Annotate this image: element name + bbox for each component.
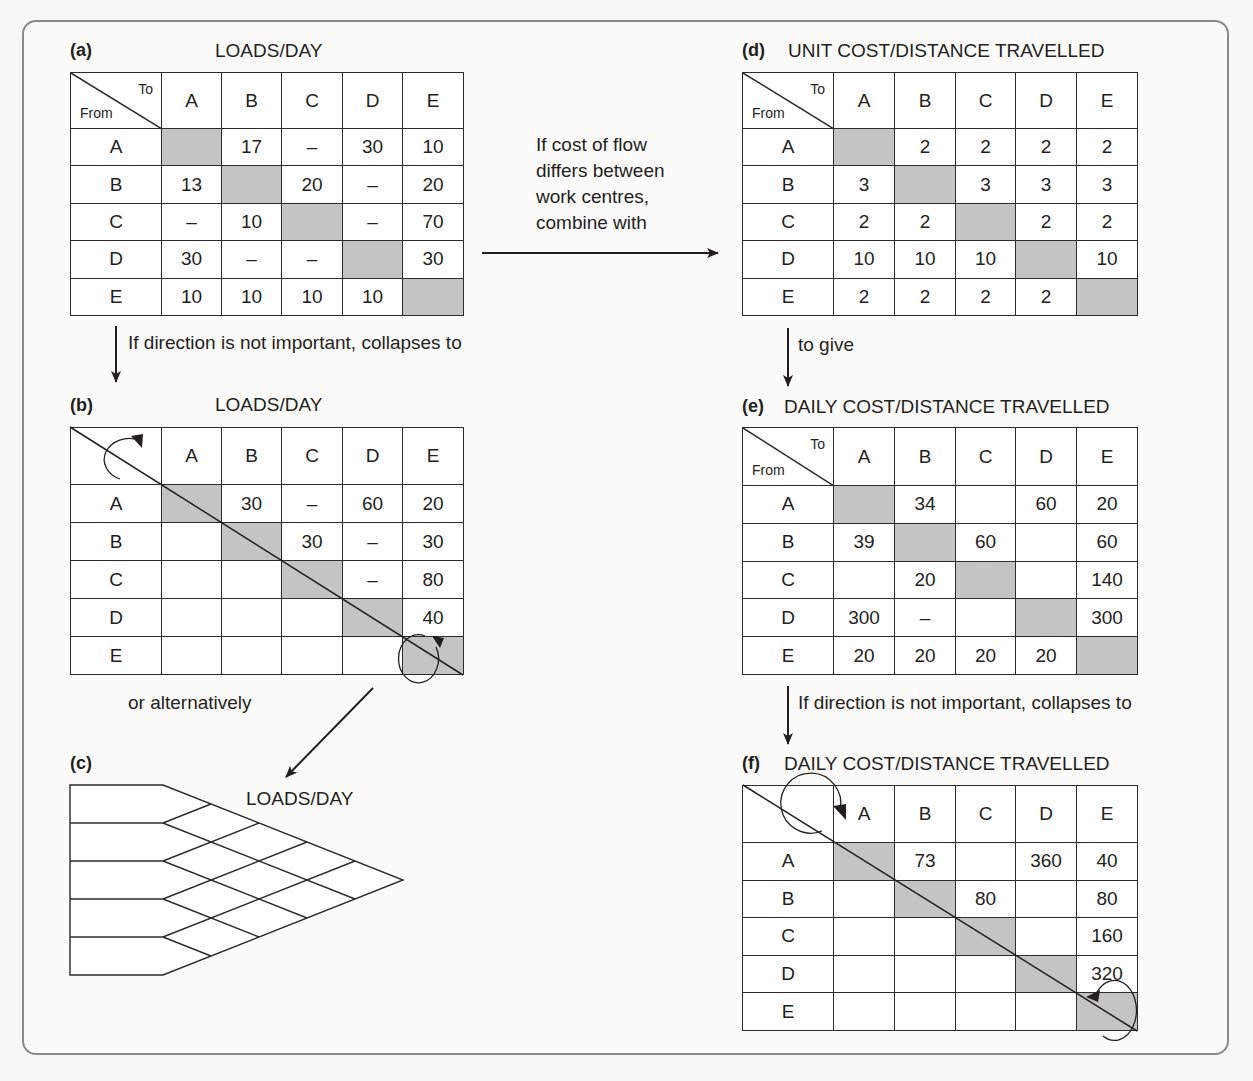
note-a-to-d-line-1: If cost of flow — [536, 132, 647, 158]
cell-value: 20 — [1016, 637, 1077, 675]
diagonal-cell — [403, 637, 464, 675]
from-label: From — [80, 105, 113, 121]
table-row: A 17 – 30 10 — [71, 129, 464, 166]
cell-value: 10 — [222, 203, 282, 240]
cell-value: 2 — [895, 278, 956, 315]
cell-value — [956, 843, 1016, 881]
corner-header — [71, 428, 162, 485]
cell-value: 140 — [1077, 561, 1138, 599]
cell-value: 60 — [956, 523, 1016, 561]
cell-value — [834, 880, 895, 918]
cell-value — [895, 955, 956, 993]
row-header: D — [743, 241, 834, 278]
column-header: E — [403, 428, 464, 485]
panel-c-letter: (c) — [70, 753, 92, 774]
row-header: D — [743, 955, 834, 993]
diagonal-cell — [834, 843, 895, 881]
column-header: A — [162, 73, 222, 129]
corner-header: To From — [743, 73, 834, 129]
cell-value: 20 — [403, 485, 464, 523]
pair-value-de: 40 — [191, 926, 231, 948]
row-header: A — [743, 486, 834, 524]
corner-header: To From — [743, 428, 834, 486]
cell-value — [956, 486, 1016, 524]
row-header: C — [743, 203, 834, 240]
cell-value: 3 — [1077, 166, 1138, 203]
cell-value — [162, 599, 222, 637]
cell-value: 17 — [222, 129, 282, 166]
table-row: C 20 140 — [743, 561, 1138, 599]
table-row: C 2 2 2 2 — [743, 203, 1138, 240]
row-header: A — [71, 485, 162, 523]
cell-value — [956, 993, 1016, 1031]
cell-value — [162, 637, 222, 675]
column-header: E — [1077, 786, 1138, 843]
panel-d-letter: (d) — [742, 40, 765, 61]
row-label: D — [102, 907, 132, 929]
cell-value: – — [343, 166, 403, 203]
row-header: D — [743, 599, 834, 637]
diagonal-cell — [282, 561, 343, 599]
cell-value: 360 — [1016, 843, 1077, 881]
panel-f-title: DAILY COST/DISTANCE TRAVELLED — [784, 753, 1110, 775]
note-d-to-e: to give — [798, 332, 854, 358]
pair-value-cd: – — [191, 888, 231, 910]
diagonal-cell — [403, 278, 464, 315]
note-a-to-b: If direction is not important, collapses… — [128, 330, 462, 356]
cell-value: 320 — [1077, 955, 1138, 993]
cell-value: 39 — [834, 523, 895, 561]
cell-value — [834, 955, 895, 993]
row-header: A — [743, 843, 834, 881]
to-label: To — [810, 81, 825, 97]
panel-f-matrix: A B C D E A 73 360 40 B 80 80 C 160 D 32… — [742, 785, 1138, 1031]
cell-value: 3 — [1016, 166, 1077, 203]
pair-value-ad: 60 — [287, 850, 327, 872]
diagonal-cell — [956, 203, 1016, 240]
row-header: D — [71, 599, 162, 637]
pair-value-ae: 20 — [334, 869, 374, 891]
cell-value — [222, 599, 282, 637]
cell-value: – — [282, 485, 343, 523]
cell-value: 60 — [1016, 486, 1077, 524]
cell-value: 10 — [222, 278, 282, 315]
cell-value — [343, 637, 403, 675]
row-header: C — [743, 561, 834, 599]
corner-header: To From — [71, 73, 162, 129]
panel-b-letter: (b) — [70, 395, 93, 416]
panel-a-title: LOADS/DAY — [215, 40, 322, 62]
column-header: C — [956, 786, 1016, 843]
table-row: E 20 20 20 20 — [743, 637, 1138, 675]
note-b-to-c: or alternatively — [128, 690, 252, 716]
cell-value: 30 — [343, 129, 403, 166]
diagonal-cell — [834, 486, 895, 524]
cell-value: 30 — [222, 485, 282, 523]
cell-value: 2 — [956, 129, 1016, 166]
cell-value — [1016, 880, 1077, 918]
cell-value: 10 — [1077, 241, 1138, 278]
cell-value: 3 — [834, 166, 895, 203]
table-row: A 30 – 60 20 — [71, 485, 464, 523]
diagonal-cell — [1077, 993, 1138, 1031]
column-header: C — [956, 428, 1016, 486]
cell-value: – — [343, 523, 403, 561]
diagonal-cell — [1077, 637, 1138, 675]
panel-c-title: LOADS/DAY — [246, 788, 353, 810]
column-header: A — [834, 73, 895, 129]
note-a-to-d-line-3: work centres, — [536, 184, 649, 210]
panel-f-letter: (f) — [742, 753, 760, 774]
from-label: From — [752, 462, 785, 478]
row-header: C — [743, 918, 834, 956]
pair-value-ab: 30 — [191, 812, 231, 834]
table-row: D 300 – 300 — [743, 599, 1138, 637]
row-header: C — [71, 203, 162, 240]
diagonal-cell — [222, 166, 282, 203]
column-header: E — [1077, 428, 1138, 486]
diagonal-cell — [834, 129, 895, 166]
cell-value: 2 — [895, 129, 956, 166]
cell-value: 20 — [895, 637, 956, 675]
column-header: E — [403, 73, 464, 129]
cell-value: 20 — [956, 637, 1016, 675]
cell-value: 20 — [834, 637, 895, 675]
row-header: E — [743, 993, 834, 1031]
cell-value: 20 — [403, 166, 464, 203]
